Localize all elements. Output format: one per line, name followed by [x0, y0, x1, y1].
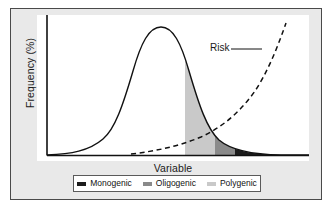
legend-item-monogenic: Monogenic: [77, 179, 132, 188]
legend-swatch-oligogenic: [143, 182, 152, 186]
chart-legend: Monogenic Oligogenic Polygenic: [73, 175, 261, 192]
chart-card: Frequency (%) Variable Risk Monogenic Ol…: [10, 8, 322, 200]
legend-swatch-monogenic: [77, 182, 86, 186]
legend-label-oligogenic: Oligogenic: [156, 179, 196, 188]
shaded-region-polygenic: [47, 27, 309, 155]
y-axis-label: Frequency (%): [24, 21, 36, 125]
x-axis-label: Variable: [37, 162, 309, 174]
legend-item-polygenic: Polygenic: [207, 179, 257, 188]
legend-swatch-polygenic: [207, 182, 216, 186]
shaded-region-monogenic: [47, 27, 309, 155]
legend-label-monogenic: Monogenic: [90, 179, 132, 188]
figure-container: Frequency (%) Variable Risk Monogenic Ol…: [0, 0, 334, 210]
legend-item-oligogenic: Oligogenic: [143, 179, 196, 188]
shaded-region-oligogenic: [47, 27, 309, 155]
frequency-curve: [47, 27, 309, 155]
risk-annotation-label: Risk: [210, 42, 229, 53]
legend-label-polygenic: Polygenic: [220, 179, 257, 188]
